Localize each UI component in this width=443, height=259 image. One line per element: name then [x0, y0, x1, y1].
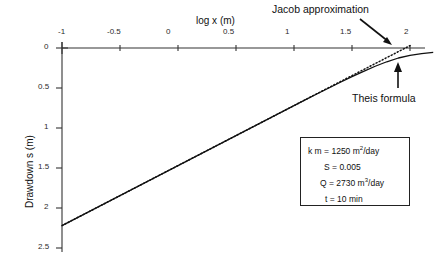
parameter-unit: /day: [368, 178, 384, 188]
plot-area: [0, 0, 443, 259]
parameter-value: 2730 m: [336, 178, 364, 188]
parameter-value: 1250 m: [331, 146, 359, 156]
parameter-equals: =: [330, 194, 335, 204]
parameter-box: k m = 1250 m2/day S = 0.005 Q = 2730 m3/…: [300, 137, 410, 206]
theis-annotation-arrow: [394, 62, 402, 88]
jacob-annotation-arrow: [360, 19, 392, 45]
parameter-row: t = 10 min: [325, 193, 363, 204]
parameter-equals: =: [329, 178, 334, 188]
annotation-theis-formula: Theis formula: [352, 93, 416, 104]
annotation-jacob-approximation: Jacob approximation: [272, 4, 369, 15]
parameter-row: k m = 1250 m2/day: [308, 145, 379, 156]
parameter-equals: =: [332, 162, 337, 172]
parameter-symbol: S: [324, 162, 330, 172]
parameter-equals: =: [324, 146, 329, 156]
parameter-value: 10 min: [337, 194, 363, 204]
parameter-row: Q = 2730 m3/day: [320, 177, 384, 188]
parameter-symbol: k m: [308, 146, 322, 156]
parameter-value: 0.005: [339, 162, 360, 172]
parameter-symbol: Q: [320, 178, 327, 188]
parameter-symbol: t: [325, 194, 327, 204]
drawdown-chart: log x (m) -1 -0.5 0 0.5 1 1.5 2 Drawdown…: [0, 0, 443, 259]
parameter-row: S = 0.005: [324, 161, 361, 172]
parameter-unit: /day: [363, 146, 379, 156]
